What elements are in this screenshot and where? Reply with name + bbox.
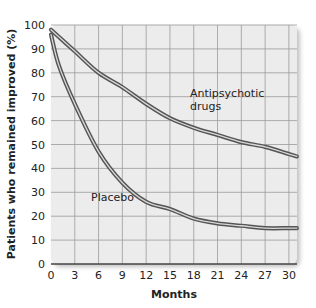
svg-text:27: 27 (258, 269, 272, 282)
svg-text:21: 21 (211, 269, 225, 282)
svg-text:0: 0 (48, 269, 55, 282)
x-axis-label: Months (151, 288, 197, 301)
svg-text:60: 60 (31, 115, 45, 128)
x-axis-ticks: 036912151821242730 (48, 269, 296, 282)
y-axis-ticks: 0102030405060708090100 (24, 19, 45, 271)
line-chart: 0102030405060708090100 03691215182124273… (0, 0, 316, 308)
svg-text:50: 50 (31, 139, 45, 152)
svg-text:90: 90 (31, 43, 45, 56)
svg-text:30: 30 (31, 186, 45, 199)
svg-text:10: 10 (31, 234, 45, 247)
svg-text:80: 80 (31, 67, 45, 80)
svg-text:30: 30 (282, 269, 296, 282)
svg-text:15: 15 (163, 269, 177, 282)
svg-text:3: 3 (71, 269, 78, 282)
svg-text:100: 100 (24, 19, 45, 32)
svg-text:18: 18 (187, 269, 201, 282)
annotation-placebo: Placebo (91, 191, 134, 204)
svg-text:6: 6 (95, 269, 102, 282)
svg-text:40: 40 (31, 162, 45, 175)
svg-text:24: 24 (234, 269, 248, 282)
svg-text:9: 9 (119, 269, 126, 282)
svg-text:12: 12 (139, 269, 153, 282)
svg-text:0: 0 (38, 258, 45, 271)
svg-text:70: 70 (31, 91, 45, 104)
y-axis-label: Patients who remained improved (%) (5, 29, 18, 260)
svg-text:20: 20 (31, 210, 45, 223)
